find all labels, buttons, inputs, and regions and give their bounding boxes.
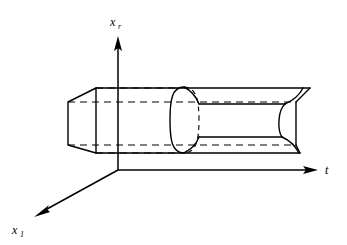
axis-group (34, 36, 318, 217)
figure-container: x r t x 1 (0, 0, 347, 245)
axis-depth-arrow-icon (34, 205, 50, 217)
axis-label-vertical: x (109, 15, 116, 29)
prism-solid-edges (68, 88, 310, 153)
cylinder-group (170, 87, 303, 153)
prism-hidden-edges (68, 88, 296, 153)
axis-depth-line (47, 170, 118, 209)
axis-label-horizontal: t (325, 163, 329, 177)
cylinder-left-cap-back-arc-hidden (184, 87, 199, 153)
axis-label-vertical-subscript: r (118, 22, 122, 31)
prism-left-end-face (68, 88, 96, 153)
axis-label-depth-subscript: 1 (20, 230, 24, 239)
axis-label-depth: x (11, 223, 18, 237)
cylinder-left-cap-front-arc (170, 87, 184, 153)
diagram-canvas: x r t x 1 (0, 0, 347, 245)
cylinder-right-cap-front-arc (279, 104, 285, 137)
